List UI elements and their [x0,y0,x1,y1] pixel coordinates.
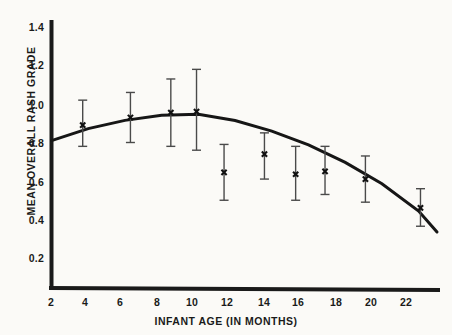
x-tick-label: 10 [181,296,203,308]
x-tick-label: 4 [74,296,96,308]
x-axis-title: INFANT AGE (IN MONTHS) [0,315,452,327]
x-tick-label: 14 [253,296,275,308]
x-tick-label: 8 [146,296,168,308]
x-tick-label: 16 [287,296,309,308]
error-bars [78,69,425,226]
trend-curve [52,114,438,232]
x-tick-label: 12 [216,296,238,308]
x-tick-label: 18 [325,296,347,308]
y-axis-title: MEAN OVERALL RASH GRADE [25,16,37,246]
axis-lines [49,20,440,290]
x-tick-label: 2 [40,296,62,308]
chart-figure: 1.4 1.2 1.0 0.8 0.6 0.4 0.2 2 4 6 8 10 1… [0,0,452,335]
x-tick-label: 6 [109,296,131,308]
x-tick-label: 20 [360,296,382,308]
chart-plot-area [0,0,452,335]
x-tick-label: 22 [395,296,417,308]
x-axis-line [49,288,440,290]
y-tick-label: 0.2 [18,252,44,264]
